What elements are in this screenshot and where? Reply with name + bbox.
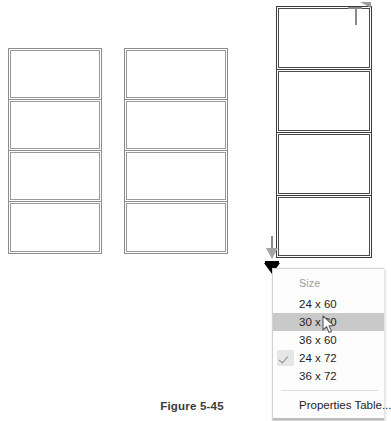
triangle-drag-handle-icon[interactable] [266,248,278,259]
wall-panel[interactable] [8,201,102,254]
wall-panel[interactable] [124,48,228,100]
wall-panel[interactable] [124,150,228,202]
figure-caption: Figure 5-45 [0,400,384,412]
menu-item-label: 24 x 60 [299,298,337,310]
size-dropdown-menu[interactable]: Size 24 x 60 30 x 60 36 x 60 24 x 72 36 … [272,268,384,421]
menu-item-label: 24 x 72 [299,352,337,364]
checkmark-icon [277,350,294,366]
curtain-wall-group-left[interactable] [8,48,102,254]
handle-stem [355,7,357,25]
wall-panel[interactable] [276,132,372,196]
wall-panel[interactable] [8,150,102,202]
menu-bottom-edge [273,418,384,420]
curtain-wall-group-right-selected[interactable] [276,6,372,258]
wall-panel[interactable] [276,69,372,133]
mouse-pointer-icon [322,315,335,334]
menu-item-36x72[interactable]: 36 x 72 [273,367,384,385]
curtain-wall-group-middle[interactable] [124,48,228,254]
wall-panel[interactable] [276,6,372,70]
wall-panel[interactable] [124,99,228,151]
menu-item-label: 36 x 60 [299,334,337,346]
menu-item-label: 36 x 72 [299,370,337,382]
size-menu-header: Size [273,272,384,295]
wall-panel[interactable] [8,99,102,151]
menu-separator [281,390,378,391]
menu-item-24x60[interactable]: 24 x 60 [273,295,384,313]
wall-panel[interactable] [8,48,102,100]
wall-panel[interactable] [276,195,372,258]
wall-panel[interactable] [124,201,228,254]
menu-item-24x72[interactable]: 24 x 72 [273,349,384,367]
